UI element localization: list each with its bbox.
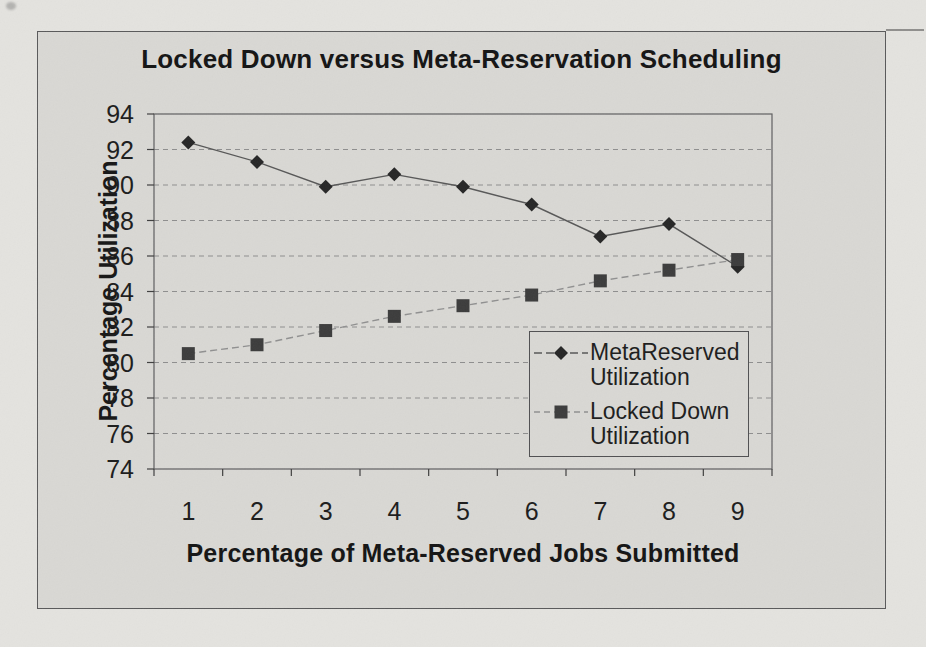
- x-tick-label: 9: [708, 498, 768, 524]
- legend-entry-lockeddown: Locked Down Utilization: [532, 399, 744, 449]
- legend-entry-metareserved: MetaReserved Utilization: [532, 340, 744, 390]
- legend: MetaReserved Utilization Locked Down Uti…: [529, 331, 749, 457]
- x-tick-label: 6: [502, 498, 562, 524]
- y-tick-label: 78: [38, 385, 134, 411]
- chart-frame: Locked Down versus Meta-Reservation Sche…: [37, 31, 886, 609]
- x-tick-label: 4: [364, 498, 424, 524]
- scanned-page: { "page": { "paper_color": "#e4e3df", "c…: [0, 0, 926, 647]
- y-tick-label: 84: [38, 279, 134, 305]
- y-tick-label: 80: [38, 350, 134, 376]
- scan-artifact-speck: [6, 2, 16, 10]
- y-tick-label: 94: [38, 101, 134, 127]
- x-tick-label: 5: [433, 498, 493, 524]
- scan-artifact-streak: [886, 29, 924, 31]
- x-tick-label: 3: [296, 498, 356, 524]
- x-axis-title: Percentage of Meta-Reserved Jobs Submitt…: [154, 539, 772, 568]
- diamond-marker-icon: [532, 340, 590, 366]
- y-tick-label: 82: [38, 314, 134, 340]
- y-tick-label: 76: [38, 421, 134, 447]
- y-tick-label: 88: [38, 208, 134, 234]
- legend-entry-label: MetaReserved Utilization: [590, 340, 740, 390]
- x-tick-label: 2: [227, 498, 287, 524]
- square-marker-icon: [532, 399, 590, 425]
- y-tick-label: 74: [38, 456, 134, 482]
- legend-entry-label: Locked Down Utilization: [590, 399, 729, 449]
- x-tick-label: 7: [570, 498, 630, 524]
- x-tick-label: 1: [158, 498, 218, 524]
- y-tick-label: 90: [38, 172, 134, 198]
- y-tick-label: 86: [38, 243, 134, 269]
- x-tick-label: 8: [639, 498, 699, 524]
- y-tick-label: 92: [38, 137, 134, 163]
